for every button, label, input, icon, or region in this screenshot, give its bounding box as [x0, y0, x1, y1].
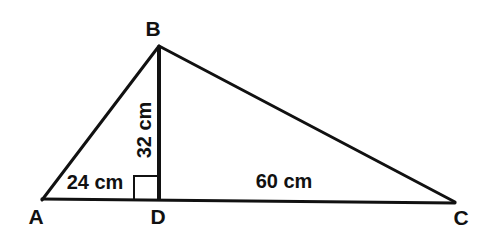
vertex-label-A: A: [28, 206, 43, 227]
vertex-label-D: D: [150, 206, 165, 227]
measurement-label-BD: 32 cm: [134, 102, 154, 159]
triangle-diagram-canvas: [0, 0, 492, 239]
geometry-figure: A B C D 24 cm 32 cm 60 cm: [0, 0, 492, 239]
segment-base-AC: [42, 199, 455, 203]
right-angle-marker-icon: [134, 176, 158, 200]
vertex-label-C: C: [453, 207, 468, 228]
measurement-label-AD: 24 cm: [67, 172, 124, 192]
vertex-label-B: B: [145, 18, 160, 39]
measurement-label-DC: 60 cm: [256, 171, 313, 191]
